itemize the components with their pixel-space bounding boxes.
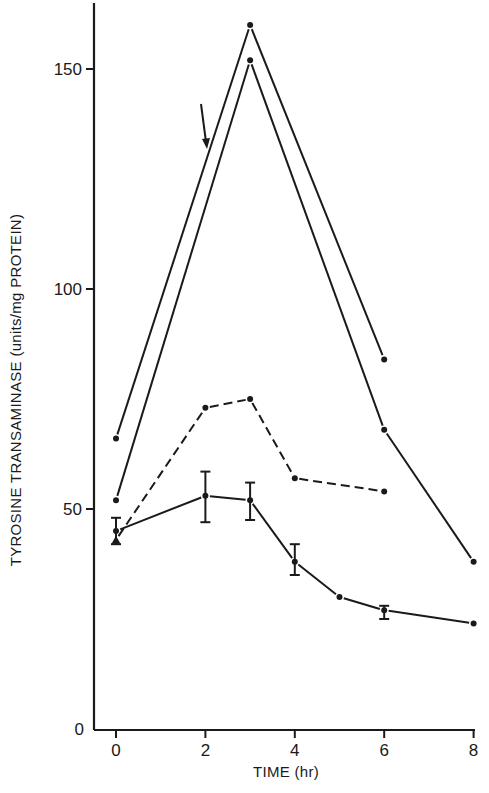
series-segment — [117, 29, 248, 434]
x-ticks: 02468 — [111, 730, 478, 760]
data-point — [202, 405, 208, 411]
data-point — [471, 620, 477, 626]
y-tick-label: 50 — [63, 500, 82, 519]
data-point — [381, 488, 387, 494]
y-axis-title: TYROSINE TRANSAMINASE (units/mg PROTEIN) — [7, 214, 24, 567]
data-point — [247, 396, 253, 402]
data-point — [247, 22, 253, 28]
series-segment — [210, 496, 246, 500]
x-tick-label: 2 — [201, 741, 210, 760]
series-segment — [344, 598, 380, 609]
x-tick-label: 6 — [379, 741, 388, 760]
y-ticks: 050100150 — [54, 60, 94, 739]
y-tick-label: 0 — [75, 720, 84, 739]
data-point — [113, 436, 119, 442]
series-mean-with-error — [111, 472, 477, 627]
chart: 050100150 02468 TIME (hr) TYROSINE TRANS… — [0, 0, 489, 793]
series-dashed — [112, 396, 388, 544]
x-tick-label: 0 — [111, 741, 120, 760]
arrow-down-icon — [202, 138, 210, 149]
series-segment — [298, 565, 336, 595]
x-tick-label: 4 — [290, 741, 299, 760]
data-point — [381, 427, 387, 433]
y-tick-label: 100 — [54, 280, 82, 299]
data-point — [337, 594, 343, 600]
series-segment — [117, 65, 248, 496]
y-tick-label: 150 — [54, 60, 82, 79]
series-second-solid — [113, 57, 477, 565]
series-group — [111, 22, 477, 626]
series-segment — [252, 403, 292, 474]
series-segment — [299, 479, 379, 491]
series-segment — [210, 400, 246, 407]
arrow-shaft — [201, 104, 206, 142]
annotations — [201, 104, 210, 149]
series-segment — [387, 434, 471, 559]
x-axis-title: TIME (hr) — [253, 763, 319, 780]
x-tick-label: 8 — [469, 741, 478, 760]
data-point — [292, 475, 298, 481]
series-segment — [253, 504, 292, 558]
data-point — [381, 356, 387, 362]
series-segment — [120, 497, 201, 529]
series-upper-solid — [113, 22, 387, 442]
data-point — [247, 57, 253, 63]
series-segment — [252, 29, 383, 355]
data-point — [113, 497, 119, 503]
series-segment — [252, 64, 383, 425]
series-segment — [119, 412, 203, 537]
data-point — [471, 559, 477, 565]
series-segment — [389, 611, 469, 623]
